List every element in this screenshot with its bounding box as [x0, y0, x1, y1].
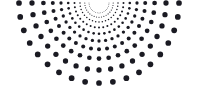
burst-dot: [119, 63, 124, 68]
burst-dot: [73, 63, 78, 68]
burst-dot: [56, 69, 62, 75]
burst-dot: [84, 14, 86, 16]
burst-dot: [121, 10, 123, 12]
burst-dot: [108, 6, 109, 7]
burst-dot: [82, 12, 84, 14]
burst-dot: [136, 69, 142, 75]
burst-dot: [59, 1, 62, 4]
burst-dot: [108, 31, 111, 34]
burst-dot: [64, 20, 67, 23]
burst-dot: [106, 25, 108, 27]
burst-dot: [97, 39, 100, 42]
burst-dot: [113, 2, 114, 3]
burst-dot: [54, 36, 59, 41]
burst-dot: [117, 2, 119, 4]
burst-dot: [124, 17, 127, 20]
burst-dot: [106, 15, 107, 16]
burst-dot: [143, 9, 147, 13]
burst-dot: [108, 66, 113, 71]
burst-dot: [82, 28, 85, 31]
burst-dot: [116, 9, 118, 11]
burst-dot: [86, 23, 88, 25]
burst-dot: [78, 25, 81, 28]
burst-dot: [98, 33, 101, 36]
burst-dot: [80, 6, 82, 8]
burst-dot: [117, 6, 119, 8]
burst-dot: [157, 52, 163, 58]
burst-dot: [132, 31, 136, 35]
burst-dot: [89, 4, 90, 5]
burst-dot: [107, 8, 108, 9]
burst-dot: [101, 16, 102, 17]
burst-dot: [69, 75, 75, 81]
burst-dot: [45, 43, 50, 48]
burst-dot: [74, 6, 76, 8]
burst-dot: [106, 9, 107, 10]
burst-dot: [73, 30, 76, 33]
burst-dot: [148, 61, 154, 67]
burst-dot: [106, 55, 111, 60]
burst-dot: [104, 11, 105, 12]
burst-dot: [67, 2, 70, 5]
burst-dot: [113, 28, 116, 31]
burst-dot: [108, 19, 110, 21]
burst-dot: [89, 3, 90, 4]
burst-dot: [94, 16, 95, 17]
burst-dot: [90, 8, 91, 9]
burst-dot: [151, 10, 156, 15]
burst-dot: [61, 43, 66, 48]
burst-dot: [79, 2, 81, 4]
burst-dot: [109, 3, 110, 4]
burst-dot: [29, 0, 34, 5]
burst-dot: [120, 41, 124, 45]
burst-dot: [80, 9, 82, 11]
burst-dot: [118, 25, 121, 28]
burst-dot: [124, 75, 130, 81]
burst-dot: [95, 12, 96, 13]
burst-dot: [139, 36, 144, 41]
burst-dot: [116, 34, 119, 37]
burst-dot: [113, 14, 115, 16]
burst-dot: [86, 10, 87, 11]
burst-dot: [91, 15, 92, 16]
burst-dot: [176, 0, 182, 6]
burst-dot: [102, 26, 104, 28]
burst-dot: [97, 12, 98, 13]
burst-dot: [165, 40, 171, 46]
burst-dot: [85, 66, 90, 71]
burst-dot: [91, 39, 94, 42]
burst-dot: [103, 32, 106, 35]
burst-dot: [99, 13, 100, 14]
burst-dot: [92, 10, 93, 11]
burst-dot: [162, 12, 167, 17]
burst-dot: [152, 1, 157, 6]
burst-dot: [100, 12, 101, 13]
burst-dot: [79, 18, 81, 20]
burst-dot: [89, 19, 91, 21]
burst-dot: [77, 14, 79, 16]
burst-dot: [98, 27, 100, 29]
burst-dot: [89, 47, 93, 51]
burst-dot: [154, 34, 159, 39]
burst-dot: [117, 18, 119, 20]
burst-dot: [98, 21, 100, 23]
burst-dot: [69, 12, 72, 15]
burst-dot: [41, 1, 46, 6]
burst-dot: [108, 4, 109, 5]
burst-dot: [60, 8, 63, 11]
burst-dot: [140, 17, 144, 21]
burst-dot: [16, 0, 22, 6]
burst-dot: [27, 40, 33, 46]
burst-dot: [96, 80, 102, 86]
burst-dot: [110, 17, 112, 19]
burst-dot: [62, 14, 65, 17]
burst-dot: [129, 2, 132, 5]
burst-dot: [74, 2, 76, 4]
burst-dot: [49, 28, 54, 33]
burst-dot: [87, 55, 92, 60]
burst-dot: [159, 23, 164, 28]
burst-dot: [94, 26, 96, 28]
burst-dot: [127, 36, 131, 40]
burst-dot: [105, 20, 107, 22]
burst-dot: [21, 28, 27, 34]
